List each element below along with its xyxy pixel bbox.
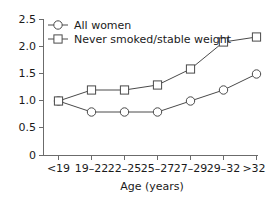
legend-entry-never-smoked-stable-weight: Never smoked/stable weight [48,33,232,46]
y-tick-label: 1.0 [19,94,37,107]
chart-legend: All women Never smoked/stable weight [48,19,232,46]
legend-entry-all-women: All women [48,19,131,32]
data-point-marker [186,65,194,73]
y-tick-label: 0.5 [19,121,37,134]
data-point-marker [153,81,161,89]
data-point-marker [219,86,227,94]
data-point-marker [252,33,260,41]
data-point-marker [186,97,194,105]
x-tick-label: 25–27 [141,162,175,175]
x-tick-label: 22–25 [108,162,142,175]
data-point-marker [120,86,128,94]
legend-label: All women [74,19,131,32]
legend-circle-icon [54,21,62,29]
data-point-marker [252,70,260,78]
y-tick-label: 1.5 [19,67,37,80]
x-tick-label: 29–32 [207,162,241,175]
line-chart: 2.5 2.0 1.5 1.0 0.5 0 <19 19–22 22–25 25… [0,0,270,198]
y-tick-label: 2.0 [19,40,37,53]
x-tick-label: 19–22 [75,162,109,175]
chart-container: 2.5 2.0 1.5 1.0 0.5 0 <19 19–22 22–25 25… [0,0,270,198]
y-tick-labels: 2.5 2.0 1.5 1.0 0.5 0 [19,13,37,162]
x-tick-label: >32 [242,162,265,175]
data-point-marker [54,97,62,105]
x-tick-marks [59,156,257,161]
legend-square-icon [54,35,62,43]
x-axis-title: Age (years) [120,180,184,193]
data-point-marker [153,108,161,116]
series-all-women [54,70,260,116]
data-point-marker [87,108,95,116]
legend-label: Never smoked/stable weight [74,33,232,46]
data-point-marker [120,108,128,116]
x-tick-label: <19 [47,162,70,175]
data-point-marker [87,86,95,94]
y-tick-label: 2.5 [19,13,37,26]
x-tick-label: 27–29 [174,162,208,175]
x-tick-labels: <19 19–22 22–25 25–27 27–29 29–32 >32 [47,162,266,175]
y-tick-label: 0 [29,149,36,162]
y-tick-marks [39,20,44,156]
